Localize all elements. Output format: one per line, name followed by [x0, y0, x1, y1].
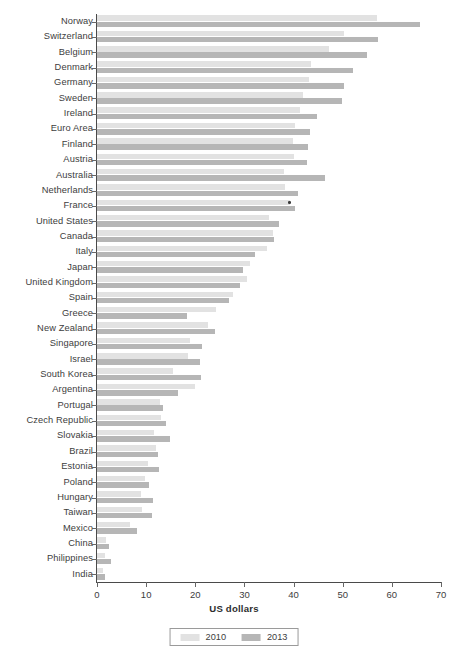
- bar-group: [97, 214, 441, 229]
- bar-2010: [97, 46, 329, 51]
- bar-row: New Zealand: [0, 321, 468, 336]
- bar-2013: [97, 68, 353, 73]
- bar-group: [97, 352, 441, 367]
- category-label-austria: Austria: [0, 152, 93, 167]
- bar-row: Belgium: [0, 45, 468, 60]
- bar-2010: [97, 415, 161, 420]
- category-label-mexico: Mexico: [0, 521, 93, 536]
- category-label-china: China: [0, 536, 93, 551]
- bar-2013: [97, 498, 153, 503]
- bar-row: Denmark: [0, 60, 468, 75]
- category-label-poland: Poland: [0, 475, 93, 490]
- bar-2010: [97, 292, 233, 297]
- bar-group: [97, 29, 441, 44]
- category-label-finland: Finland: [0, 137, 93, 152]
- bar-group: [97, 490, 441, 505]
- bar-2013: [97, 191, 298, 196]
- category-label-spain: Spain: [0, 290, 93, 305]
- bar-2010: [97, 261, 250, 266]
- bar-2013: [97, 329, 215, 334]
- category-label-singapore: Singapore: [0, 336, 93, 351]
- category-label-portugal: Portugal: [0, 398, 93, 413]
- bar-2010: [97, 461, 148, 466]
- bar-row: Taiwan: [0, 505, 468, 520]
- bar-2013: [97, 160, 307, 165]
- bar-row: Singapore: [0, 336, 468, 351]
- bar-2010: [97, 445, 156, 450]
- bar-row: France: [0, 198, 468, 213]
- bar-row: Israel: [0, 352, 468, 367]
- category-label-estonia: Estonia: [0, 459, 93, 474]
- bar-2013: [97, 267, 243, 272]
- annotation-marker-dot: [288, 201, 291, 204]
- bar-2010: [97, 322, 208, 327]
- bar-2010: [97, 61, 311, 66]
- bar-group: [97, 45, 441, 60]
- bar-group: [97, 168, 441, 183]
- bar-2013: [97, 359, 200, 364]
- bar-2013: [97, 574, 105, 579]
- bar-row: Canada: [0, 229, 468, 244]
- category-label-taiwan: Taiwan: [0, 505, 93, 520]
- bar-row: Poland: [0, 475, 468, 490]
- bar-2010: [97, 338, 190, 343]
- bar-row: Czech Republic: [0, 413, 468, 428]
- legend-label-2010: 2010: [206, 632, 226, 642]
- bar-row: Slovakia: [0, 428, 468, 443]
- bar-2010: [97, 107, 300, 112]
- bar-group: [97, 505, 441, 520]
- bar-group: [97, 428, 441, 443]
- bar-2013: [97, 298, 229, 303]
- bar-group: [97, 152, 441, 167]
- bar-row: Brazil: [0, 444, 468, 459]
- bar-group: [97, 198, 441, 213]
- x-tick: [244, 582, 245, 587]
- bar-2010: [97, 507, 142, 512]
- bar-2013: [97, 114, 317, 119]
- category-label-australia: Australia: [0, 168, 93, 183]
- x-tick: [97, 582, 98, 587]
- bar-group: [97, 14, 441, 29]
- bar-2013: [97, 52, 367, 57]
- bar-2013: [97, 559, 111, 564]
- bar-2010: [97, 200, 290, 205]
- bar-group: [97, 336, 441, 351]
- category-label-philippines: Philippines: [0, 551, 93, 566]
- category-label-belgium: Belgium: [0, 45, 93, 60]
- category-label-france: France: [0, 198, 93, 213]
- bar-group: [97, 536, 441, 551]
- bar-row: China: [0, 536, 468, 551]
- bar-2010: [97, 15, 377, 20]
- category-label-norway: Norway: [0, 14, 93, 29]
- bar-row: India: [0, 567, 468, 582]
- bar-2010: [97, 138, 293, 143]
- bar-2010: [97, 399, 160, 404]
- x-tick: [392, 582, 393, 587]
- x-tick-label: 10: [126, 589, 166, 600]
- bar-row: Mexico: [0, 521, 468, 536]
- bar-row: Austria: [0, 152, 468, 167]
- bar-2013: [97, 513, 152, 518]
- bar-2013: [97, 544, 109, 549]
- bar-2010: [97, 92, 303, 97]
- bar-row: Australia: [0, 168, 468, 183]
- bar-2013: [97, 467, 159, 472]
- bar-group: [97, 229, 441, 244]
- bar-2010: [97, 276, 247, 281]
- category-label-united-states: United States: [0, 214, 93, 229]
- bar-row: Spain: [0, 290, 468, 305]
- bar-row: Italy: [0, 244, 468, 259]
- category-label-israel: Israel: [0, 352, 93, 367]
- bar-group: [97, 137, 441, 152]
- bar-2013: [97, 283, 240, 288]
- x-tick-label: 70: [421, 589, 461, 600]
- bar-group: [97, 260, 441, 275]
- bar-2010: [97, 491, 141, 496]
- category-label-euro-area: Euro Area: [0, 121, 93, 136]
- x-tick: [294, 582, 295, 587]
- bar-row: Norway: [0, 14, 468, 29]
- bar-2013: [97, 221, 279, 226]
- bar-group: [97, 91, 441, 106]
- bar-group: [97, 398, 441, 413]
- bar-group: [97, 521, 441, 536]
